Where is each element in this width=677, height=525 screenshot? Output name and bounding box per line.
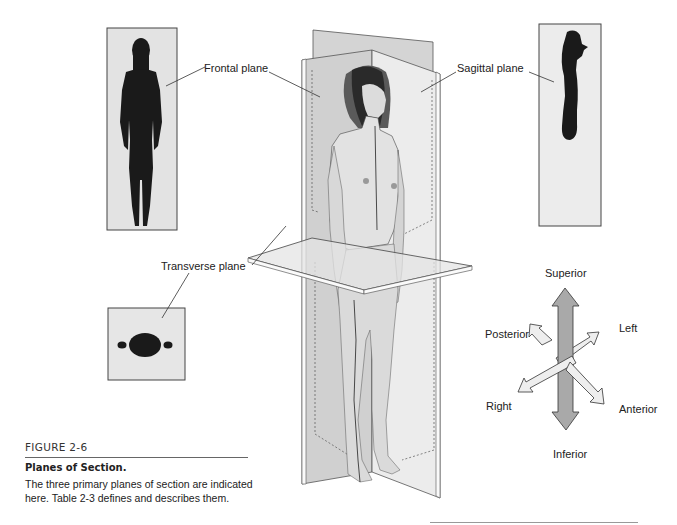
page-bottom-divider bbox=[430, 522, 638, 523]
inferior-label: Inferior bbox=[553, 448, 587, 460]
transverse-section-panel bbox=[108, 308, 185, 380]
three-d-planes-figure bbox=[248, 30, 472, 498]
right-label: Right bbox=[486, 400, 512, 412]
superior-inferior-arrow bbox=[552, 288, 579, 430]
anterior-label: Anterior bbox=[619, 403, 658, 415]
direction-arrows-icon bbox=[518, 288, 604, 430]
right-arm-cross-section bbox=[164, 342, 173, 349]
sagittal-plane-label: Sagittal plane bbox=[457, 62, 524, 74]
posterior-label: Posterior bbox=[485, 328, 529, 340]
transverse-plane-label: Transverse plane bbox=[161, 260, 246, 272]
torso-cross-section bbox=[129, 333, 161, 357]
sagittal-section-panel bbox=[539, 24, 601, 226]
figure-title: Planes of Section. bbox=[25, 462, 126, 473]
planes-of-section-diagram bbox=[0, 0, 677, 525]
caption-divider bbox=[25, 457, 248, 458]
frontal-plane-label: Frontal plane bbox=[204, 62, 268, 74]
posterior-arrow bbox=[529, 324, 552, 345]
left-label: Left bbox=[619, 322, 637, 334]
figure-caption: The three primary planes of section are … bbox=[25, 477, 265, 505]
left-arm-cross-section bbox=[118, 342, 127, 349]
frontal-section-panel bbox=[107, 28, 177, 230]
superior-label: Superior bbox=[545, 267, 587, 279]
figure-number: FIGURE 2-6 bbox=[25, 441, 87, 453]
